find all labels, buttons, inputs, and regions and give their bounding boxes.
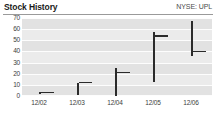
- chart-band: [22, 18, 212, 29]
- widget-header: Stock History NYSE: UPL: [0, 0, 216, 16]
- chart-gridline: [22, 18, 212, 19]
- chart-gridline: [22, 74, 212, 75]
- page-title: Stock History: [4, 2, 58, 12]
- y-axis-tick-label: 30: [2, 60, 20, 67]
- close-price-tick: [79, 82, 92, 84]
- y-axis: 010203040506070: [0, 18, 20, 102]
- y-axis-tick-label: 20: [2, 71, 20, 78]
- y-axis-tick-label: 40: [2, 48, 20, 55]
- chart-gridline: [22, 63, 212, 64]
- header-divider: [3, 14, 213, 15]
- chart-gridline: [22, 51, 212, 52]
- y-axis-tick-label: 60: [2, 26, 20, 33]
- close-price-tick: [41, 92, 54, 94]
- y-axis-tick-label: 10: [2, 82, 20, 89]
- chart-band: [22, 40, 212, 51]
- chart-gridline: [22, 40, 212, 41]
- y-axis-tick-label: 70: [2, 15, 20, 22]
- close-price-tick: [193, 51, 206, 53]
- close-price-tick: [117, 72, 130, 74]
- x-axis-tick-label: 12/05: [136, 99, 170, 106]
- ticker-symbol: NYSE: UPL: [176, 3, 212, 10]
- x-axis-tick-label: 12/02: [22, 99, 56, 106]
- x-axis-tick-label: 12/04: [98, 99, 132, 106]
- chart-gridline: [22, 95, 212, 96]
- chart-gridline: [22, 85, 212, 86]
- stock-history-widget: Stock History NYSE: UPL 010203040506070 …: [0, 0, 216, 120]
- chart-gridline: [22, 29, 212, 30]
- close-price-tick: [155, 35, 168, 37]
- chart-plot-area: [22, 18, 212, 96]
- x-axis: 12/0212/0312/0412/0512/06: [0, 99, 216, 111]
- price-range-bar: [153, 32, 155, 81]
- y-axis-tick-label: 50: [2, 37, 20, 44]
- x-axis-tick-label: 12/03: [60, 99, 94, 106]
- x-axis-tick-label: 12/06: [174, 99, 208, 106]
- price-range-bar: [77, 83, 79, 95]
